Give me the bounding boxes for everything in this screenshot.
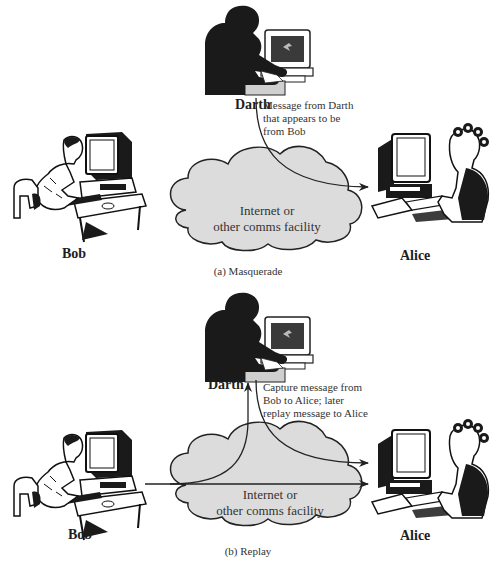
bob-figure-a xyxy=(14,132,146,242)
darth-label-b: Darth xyxy=(208,377,244,393)
network-label-line: Internet or xyxy=(187,203,347,219)
annotation-line: replay message to Alice xyxy=(263,407,368,420)
annotation-line: Capture message from xyxy=(263,381,368,394)
alice-figure-a xyxy=(372,123,489,222)
darth-figure-b xyxy=(205,293,313,382)
network-label-line: other comms facility xyxy=(187,219,347,235)
masquerade-annotation: Message from Darth that appears to be fr… xyxy=(263,99,353,138)
network-label-b: Internet or other comms facility xyxy=(190,487,350,519)
annotation-line: Message from Darth xyxy=(263,99,353,112)
network-label-a: Internet or other comms facility xyxy=(187,203,347,235)
bob-label-a: Bob xyxy=(62,246,86,262)
annotation-line: Bob to Alice; later xyxy=(263,394,368,407)
alice-figure-b xyxy=(372,419,489,518)
replay-annotation: Capture message from Bob to Alice; later… xyxy=(263,381,368,420)
caption-a: (a) Masquerade xyxy=(168,265,328,277)
network-label-line: Internet or xyxy=(190,487,350,503)
caption-b: (b) Replay xyxy=(168,545,328,557)
bob-label-b: Bob xyxy=(68,527,92,543)
darth-figure-a xyxy=(205,6,313,95)
alice-label-a: Alice xyxy=(400,248,430,264)
annotation-line: from Bob xyxy=(263,125,353,138)
diagram-canvas xyxy=(0,0,498,567)
alice-label-b: Alice xyxy=(400,528,430,544)
network-label-line: other comms facility xyxy=(190,503,350,519)
annotation-line: that appears to be xyxy=(263,112,353,125)
bob-figure-b xyxy=(14,430,146,540)
